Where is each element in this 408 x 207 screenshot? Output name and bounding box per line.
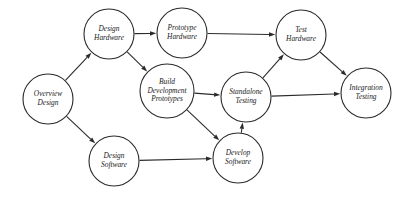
arrowhead-icon xyxy=(150,31,156,35)
edge-overview-design-to-design-software xyxy=(67,116,96,143)
node-label-prototype-hardware-line2: Hardware xyxy=(166,32,198,41)
edge-design-hardware-to-prototype-hardware xyxy=(135,31,157,35)
diagram-canvas: OverviewDesignDesignHardwarePrototypeHar… xyxy=(0,0,408,207)
edge-standalone-testing-to-test-hardware xyxy=(263,54,284,78)
node-label-overview-design-line2: Design xyxy=(37,98,59,107)
arrowhead-icon xyxy=(269,32,275,36)
node-design-hardware[interactable]: DesignHardware xyxy=(84,9,134,59)
node-label-test-hardware-line2: Hardware xyxy=(285,34,317,43)
node-label-design-hardware-line2: Hardware xyxy=(93,33,125,42)
node-prototype-hardware[interactable]: PrototypeHardware xyxy=(157,8,207,58)
node-develop-software[interactable]: DevelopSoftware xyxy=(213,133,263,183)
node-label-standalone-testing-line2: Testing xyxy=(235,96,256,105)
edge-design-software-to-develop-software xyxy=(139,157,212,161)
edge-build-development-prototypes-to-standalone-testing xyxy=(194,92,220,96)
node-standalone-testing[interactable]: StandaloneTesting xyxy=(221,72,271,122)
edge-develop-software-to-standalone-testing xyxy=(240,123,244,133)
node-label-develop-software-line2: Software xyxy=(225,157,252,166)
arrowhead-icon xyxy=(334,92,340,96)
node-test-hardware[interactable]: TestHardware xyxy=(276,10,326,60)
process-flow-diagram: OverviewDesignDesignHardwarePrototypeHar… xyxy=(0,0,408,207)
node-label-integration-testing-line2: Testing xyxy=(355,92,376,101)
arrowhead-icon xyxy=(206,157,212,161)
node-label-build-development-prototypes-line3: Prototypes xyxy=(150,94,183,103)
edge-overview-design-to-design-hardware xyxy=(65,53,91,81)
edge-test-hardware-to-integration-testing xyxy=(320,52,347,76)
node-design-software[interactable]: DesignSoftware xyxy=(89,136,139,186)
node-overview-design[interactable]: OverviewDesign xyxy=(23,74,73,124)
arrowhead-icon xyxy=(240,123,244,129)
edge-build-development-prototypes-to-develop-software xyxy=(187,110,219,140)
node-build-development-prototypes[interactable]: BuildDevelopmentPrototypes xyxy=(140,64,194,118)
edge-design-hardware-to-build-development-prototypes xyxy=(127,52,147,72)
arrowhead-icon xyxy=(214,92,220,96)
edge-standalone-testing-to-integration-testing xyxy=(271,92,340,96)
edge-prototype-hardware-to-test-hardware xyxy=(208,32,276,36)
node-integration-testing[interactable]: IntegrationTesting xyxy=(341,68,391,118)
node-label-design-software-line2: Software xyxy=(101,160,128,169)
